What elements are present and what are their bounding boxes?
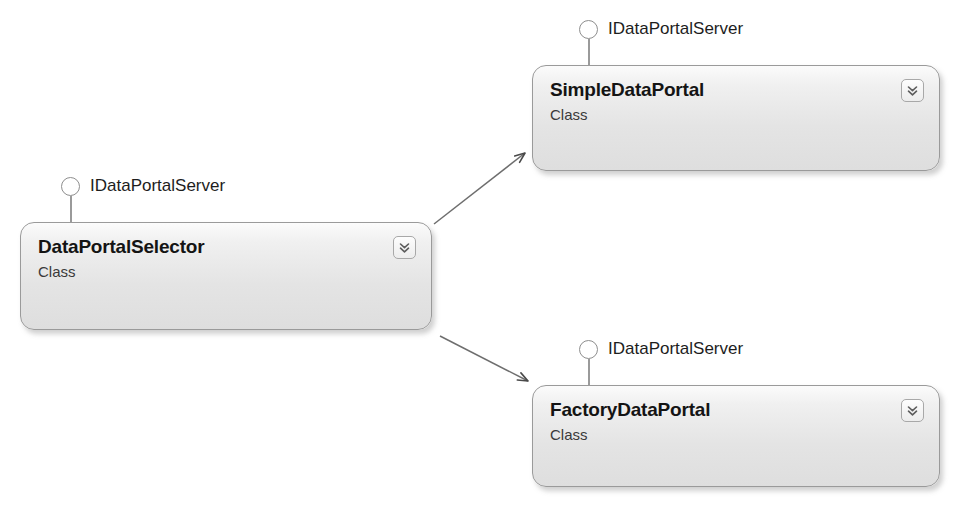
interface-stem — [588, 359, 590, 386]
class-title: DataPortalSelector — [38, 236, 204, 258]
interface-circle-icon — [579, 20, 598, 39]
interface-stem — [70, 196, 72, 223]
class-diagram-canvas: IDataPortalServer DataPortalSelector Cla… — [0, 0, 973, 520]
interface-circle-icon — [579, 340, 598, 359]
class-box-simple-data-portal[interactable]: SimpleDataPortal Class — [532, 65, 940, 171]
class-stereotype: Class — [550, 106, 588, 123]
class-stereotype: Class — [38, 263, 76, 280]
connector-selector-to-simple — [434, 153, 525, 224]
class-title: SimpleDataPortal — [550, 79, 704, 101]
class-box-factory-data-portal[interactable]: FactoryDataPortal Class — [532, 385, 940, 487]
interface-circle-icon — [61, 177, 80, 196]
class-stereotype: Class — [550, 426, 588, 443]
chevron-double-down-icon[interactable] — [901, 399, 924, 422]
interface-label: IDataPortalServer — [608, 19, 743, 39]
class-title: FactoryDataPortal — [550, 399, 710, 421]
interface-label: IDataPortalServer — [608, 339, 743, 359]
chevron-double-down-icon[interactable] — [901, 79, 924, 102]
connector-selector-to-factory — [440, 336, 528, 381]
class-box-data-portal-selector[interactable]: DataPortalSelector Class — [20, 222, 432, 330]
chevron-double-down-icon[interactable] — [393, 236, 416, 259]
interface-label: IDataPortalServer — [90, 176, 225, 196]
interface-stem — [588, 39, 590, 66]
